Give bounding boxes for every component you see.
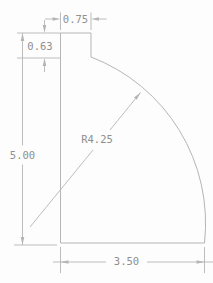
dimension-labels: 0.75 0.63 5.00 3.50 R4.25 <box>10 13 139 267</box>
arrowhead-icon <box>43 58 47 66</box>
technical-drawing: 0.75 0.63 5.00 3.50 R4.25 <box>0 0 213 283</box>
dim-label-top-width: 0.75 <box>63 13 88 25</box>
drawing-canvas: 0.75 0.63 5.00 3.50 R4.25 <box>0 0 213 283</box>
dimension-overall-height <box>14 33 57 245</box>
radius-leader <box>30 93 141 228</box>
arrowhead-icon <box>61 260 69 264</box>
arrowhead-icon <box>91 17 99 21</box>
arrowhead-icon <box>21 33 25 41</box>
arrowhead-icon <box>197 260 205 264</box>
dim-label-arc-radius: R4.25 <box>81 133 113 145</box>
leader-lower-segment <box>30 150 93 227</box>
dim-label-overall-height: 5.00 <box>10 149 35 161</box>
dim-label-base-width: 3.50 <box>114 255 139 267</box>
arrowhead-icon <box>21 237 25 245</box>
arrowhead-icon <box>43 25 47 33</box>
dim-label-notch-height: 0.63 <box>27 40 52 52</box>
arrowhead-icon <box>53 17 61 21</box>
